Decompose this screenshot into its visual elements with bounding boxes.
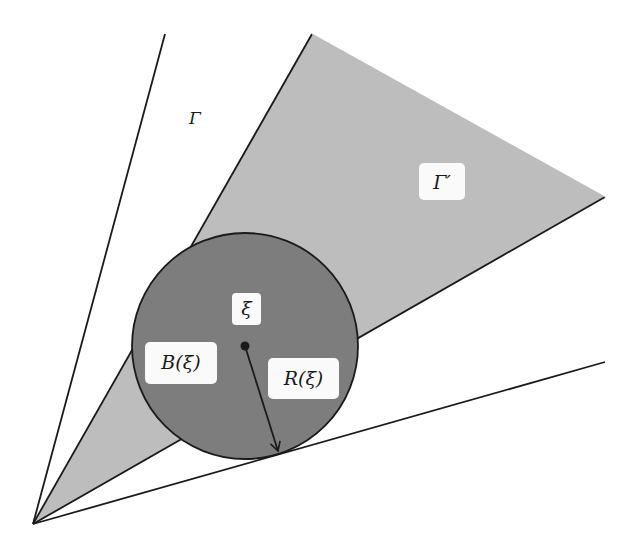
label-outer-cone: Γ [188, 108, 202, 128]
cone-ball-diagram: Γ Γ′ ξ B(ξ) R(ξ) [0, 0, 631, 552]
label-ball: B(ξ) [160, 351, 200, 373]
label-point: ξ [241, 297, 253, 319]
label-radius: R(ξ) [283, 367, 324, 389]
center-point-dot [241, 342, 250, 351]
label-inner-cone: Γ′ [432, 171, 451, 193]
